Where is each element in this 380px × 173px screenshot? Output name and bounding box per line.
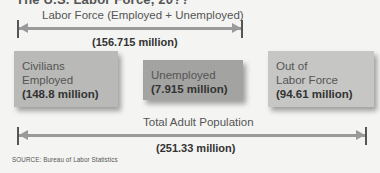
- arrow-tick-left: [17, 127, 19, 145]
- arrow-shaft: [19, 27, 241, 30]
- box-value: (7.915 million): [151, 82, 235, 96]
- civilians-employed-box: Civilians Employed (148.8 million): [14, 51, 118, 107]
- box-value: (148.8 million): [22, 87, 110, 101]
- diagram-title: The U.S. Labor Force, 20??: [16, 0, 190, 7]
- population-value: (251.33 million): [156, 142, 235, 154]
- arrow-tick-right: [365, 127, 367, 145]
- box-label-line2: Employed: [22, 73, 110, 87]
- arrowhead-right-icon: [232, 23, 241, 33]
- unemployed-box: Unemployed (7.915 million): [143, 60, 243, 100]
- box-label-line1: Out of: [276, 59, 366, 73]
- arrowhead-left-icon: [19, 130, 28, 140]
- labor-force-value: (156.715 million): [92, 36, 178, 48]
- source-note: SOURCE: Bureau of Labor Statistics: [12, 156, 118, 163]
- arrow-tick-left: [17, 20, 19, 38]
- out-of-labor-force-box: Out of Labor Force (94.61 million): [268, 51, 374, 107]
- box-label-line1: Civilians: [22, 59, 110, 73]
- box-label-line2: Labor Force: [276, 73, 366, 87]
- arrowhead-left-icon: [19, 23, 28, 33]
- box-value: (94.61 million): [276, 87, 366, 101]
- arrow-tick-right: [241, 20, 243, 38]
- arrowhead-right-icon: [356, 130, 365, 140]
- arrow-shaft: [19, 134, 365, 137]
- box-label-line1: Unemployed: [151, 68, 235, 82]
